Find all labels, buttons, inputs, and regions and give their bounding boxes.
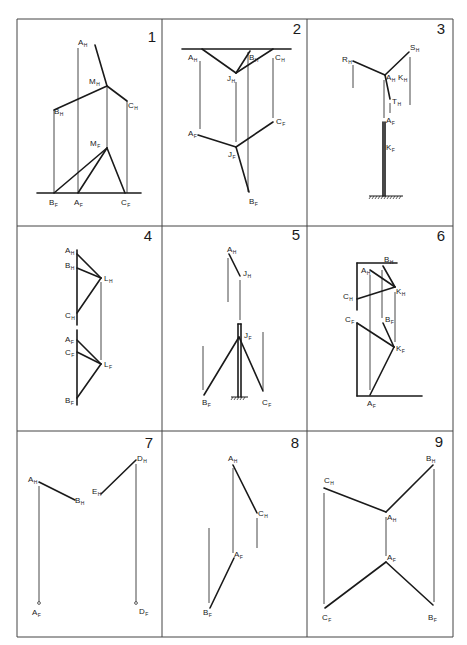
- point-label: BH: [54, 107, 64, 117]
- object-line: [77, 340, 101, 364]
- object-line: [325, 562, 386, 608]
- point-label: AF: [32, 608, 41, 618]
- panel-grid: [17, 19, 453, 637]
- panel-number: 5: [292, 226, 300, 243]
- point-label: JF: [244, 331, 252, 341]
- panel-1: 1AHMHBHCHMFBFAFCF: [37, 28, 156, 208]
- point-label: MH: [89, 77, 100, 87]
- object-line: [39, 482, 75, 500]
- panel-number: 3: [437, 20, 445, 37]
- object-line: [77, 364, 101, 398]
- panel-7: 7AHBHEHDHAFDF: [28, 434, 153, 618]
- object-line: [236, 147, 249, 192]
- point-label: CH: [275, 53, 285, 63]
- point-label: KH: [396, 287, 406, 297]
- point-label: AF: [367, 399, 376, 409]
- object-line: [54, 86, 107, 110]
- point-label: CH: [128, 101, 138, 111]
- point-label: LH: [104, 274, 113, 284]
- panel-5: 5AHJHJFBFCF: [202, 226, 300, 408]
- point-label: BF: [385, 315, 394, 325]
- point-label: AF: [188, 129, 197, 139]
- object-line: [357, 287, 395, 299]
- panel-number: 7: [145, 434, 153, 451]
- point-label: CF: [322, 613, 331, 623]
- point-label: BF: [249, 197, 258, 207]
- point-label: AH: [78, 38, 88, 48]
- object-line: [77, 352, 101, 364]
- panel-4: 4AHBHLHCHAFCFLFBF: [65, 227, 152, 406]
- point-label: CF: [262, 398, 271, 408]
- point-label: JH: [227, 74, 236, 84]
- point-label: AH: [386, 73, 396, 83]
- point-label: BF: [203, 608, 212, 618]
- object-line: [370, 347, 394, 395]
- object-line: [54, 148, 107, 193]
- point-label: AF: [234, 550, 243, 560]
- object-line: [78, 148, 107, 193]
- point-label: BF: [428, 613, 437, 623]
- object-line: [198, 135, 236, 147]
- panel-number: 9: [435, 433, 443, 450]
- point-label: BH: [426, 454, 436, 464]
- object-line: [386, 465, 433, 512]
- point-label: AH: [188, 53, 198, 63]
- point-label: BH: [249, 53, 259, 63]
- panel-number: 8: [291, 434, 299, 451]
- point-label: AF: [386, 116, 395, 126]
- point-label: KH: [398, 73, 408, 83]
- point-marker-icon: [135, 602, 138, 605]
- object-line: [77, 268, 101, 278]
- point-label: JF: [228, 150, 236, 160]
- point-label: BF: [202, 398, 211, 408]
- point-label: CF: [345, 315, 354, 325]
- panel-number: 1: [148, 28, 156, 45]
- object-line: [107, 86, 127, 101]
- point-label: BH: [65, 261, 75, 271]
- point-label: SH: [410, 43, 420, 53]
- object-line: [353, 61, 385, 75]
- point-label: CF: [276, 117, 285, 127]
- panel-number: 2: [293, 20, 301, 37]
- object-line: [233, 465, 257, 513]
- descriptive-geometry-plate: 1AHMHBHCHMFBFAFCF2AHBHCHJHCFAFJFBF3RHSHA…: [0, 0, 467, 645]
- point-label: KF: [386, 143, 395, 153]
- point-label: RH: [342, 55, 352, 65]
- panel-6: 6BHAHKHCHCFBFKFAF: [343, 227, 445, 409]
- point-label: BH: [75, 496, 85, 506]
- object-line: [95, 45, 107, 86]
- point-label: MF: [90, 139, 100, 149]
- point-label: BH: [384, 255, 394, 265]
- point-label: DF: [139, 607, 148, 617]
- object-line: [236, 122, 273, 147]
- point-label: CF: [121, 198, 130, 208]
- point-label: KF: [396, 344, 405, 354]
- point-label: DH: [137, 454, 147, 464]
- panel-9: 9CHBHAHAFCFBF: [322, 433, 443, 623]
- object-line: [202, 49, 236, 73]
- panel-8: 8AHCHAFBF: [203, 434, 299, 618]
- panels: 1AHMHBHCHMFBFAFCF2AHBHCHJHCFAFJFBF3RHSHA…: [28, 20, 445, 623]
- point-label: CF: [65, 348, 74, 358]
- point-label: AF: [387, 553, 396, 563]
- object-line: [386, 562, 433, 605]
- object-line: [107, 148, 125, 193]
- panel-3: 3RHSHAHKHTHAFKF: [342, 20, 445, 199]
- object-line: [204, 337, 239, 395]
- point-label: BF: [49, 198, 58, 208]
- point-label: AH: [227, 245, 237, 255]
- point-label: JH: [243, 269, 252, 279]
- object-line: [210, 558, 234, 608]
- panel-2: 2AHBHCHJHCFAFJFBF: [182, 20, 301, 207]
- point-label: EH: [92, 487, 102, 497]
- object-line: [370, 270, 395, 287]
- object-line: [229, 254, 240, 276]
- point-label: AF: [65, 335, 74, 345]
- point-label: BF: [65, 396, 74, 406]
- point-label: TH: [392, 97, 401, 107]
- panel-number: 6: [437, 227, 445, 244]
- point-label: CH: [258, 509, 268, 519]
- object-line: [385, 52, 409, 75]
- object-line: [239, 337, 263, 391]
- panel-number: 4: [144, 227, 152, 244]
